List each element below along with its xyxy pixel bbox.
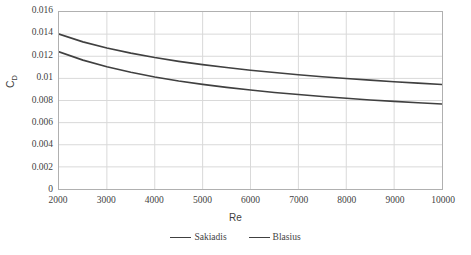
series-line-blasius [59,52,442,104]
y-axis-title: CD [4,75,19,88]
line-chart: 00.0020.0040.0060.0080.010.0120.0140.016… [0,0,471,255]
y-tick-label: 0.016 [32,6,53,16]
y-tick-label: 0 [48,185,53,195]
legend-label: Sakiadis [194,233,226,243]
y-tick-label: 0.002 [32,163,53,173]
y-tick-label: 0.01 [36,73,53,83]
x-tick-label: 8000 [337,196,356,206]
x-tick-label: 5000 [193,196,212,206]
legend-entry[interactable]: Blasius [249,233,301,243]
legend-line-swatch-icon [249,237,270,238]
series-lines [59,12,442,189]
plot-area [58,11,443,190]
legend-label: Blasius [273,233,301,243]
x-tick-label: 2000 [49,196,68,206]
y-axis-title-base: C [4,80,16,88]
y-tick-label: 0.006 [32,118,53,128]
x-tick-label: 9000 [385,196,404,206]
x-tick-label: 4000 [145,196,164,206]
x-tick-label: 6000 [241,196,260,206]
series-line-sakiadis [59,34,442,84]
x-tick-label: 7000 [289,196,308,206]
x-axis-title: Re [0,212,471,223]
x-tick-label: 10000 [431,196,455,206]
chart-legend: SakiadisBlasius [0,233,471,243]
legend-entry[interactable]: Sakiadis [170,233,226,243]
legend-line-swatch-icon [170,237,191,238]
x-tick-label: 3000 [97,196,116,206]
x-axis-tick-labels: 2000300040005000600070008000900010000 [0,196,471,210]
y-tick-label: 0.008 [32,96,53,106]
y-tick-label: 0.004 [32,140,53,150]
y-tick-label: 0.014 [32,28,53,38]
y-axis-title-subscript: D [10,75,19,80]
y-tick-label: 0.012 [32,51,53,61]
